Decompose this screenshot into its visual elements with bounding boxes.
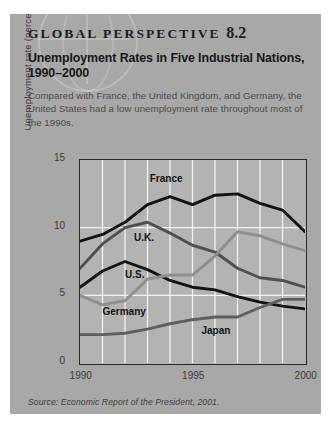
page-title: Unemployment Rates in Five Industrial Na… bbox=[28, 51, 307, 81]
eyebrow-number: 8.2 bbox=[226, 24, 246, 41]
series-label-japan: Japan bbox=[202, 325, 231, 336]
source-note: Source: Economic Report of the President… bbox=[28, 397, 219, 407]
series-label-us: U.S. bbox=[125, 269, 145, 280]
x-tick-label: 2000 bbox=[295, 370, 317, 381]
y-tick-label: 10 bbox=[41, 220, 65, 231]
y-tick-label: 15 bbox=[41, 152, 65, 163]
eyebrow: GLOBAL PERSPECTIVE 8.2 bbox=[28, 24, 307, 42]
y-axis-ticks: 051015 bbox=[41, 152, 65, 366]
series-label-france: France bbox=[150, 173, 183, 184]
series-label-uk: U.K. bbox=[134, 232, 154, 243]
y-tick-label: 0 bbox=[41, 355, 65, 366]
y-axis-label: Unemployment rate (percent) bbox=[22, 14, 33, 164]
series-label-germany: Germany bbox=[103, 306, 147, 317]
plot-svg: FranceU.K.U.S.GermanyJapan bbox=[80, 160, 305, 363]
card-description: Compared with France, the United Kingdom… bbox=[28, 89, 307, 129]
x-tick-label: 1995 bbox=[182, 370, 204, 381]
y-tick-label: 5 bbox=[41, 287, 65, 298]
card-header: GLOBAL PERSPECTIVE 8.2 Unemployment Rate… bbox=[28, 24, 307, 129]
eyebrow-text: GLOBAL PERSPECTIVE bbox=[28, 26, 221, 41]
global-perspective-card: GLOBAL PERSPECTIVE 8.2 Unemployment Rate… bbox=[10, 14, 321, 414]
chart: Unemployment rate (percent) 051015 Franc… bbox=[28, 152, 313, 392]
x-tick-label: 1990 bbox=[70, 370, 92, 381]
plot-area: FranceU.K.U.S.GermanyJapan bbox=[79, 159, 307, 365]
